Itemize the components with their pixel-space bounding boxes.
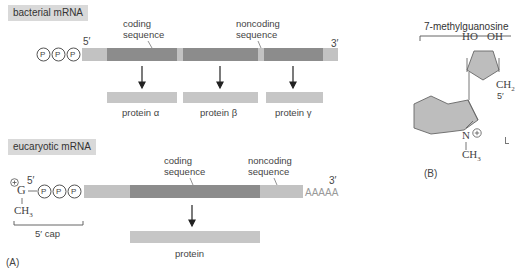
positive-charge-icon [472,128,482,138]
ho-label: HO [462,31,478,42]
panel-b-label: (B) [424,168,437,179]
ribose-5prime: 5′ [497,91,504,102]
nitrogen-label: N [462,130,470,141]
bracket-fragment [505,143,509,144]
n-methyl-label: CH3 [462,149,481,165]
oh-label: OH [487,31,503,42]
